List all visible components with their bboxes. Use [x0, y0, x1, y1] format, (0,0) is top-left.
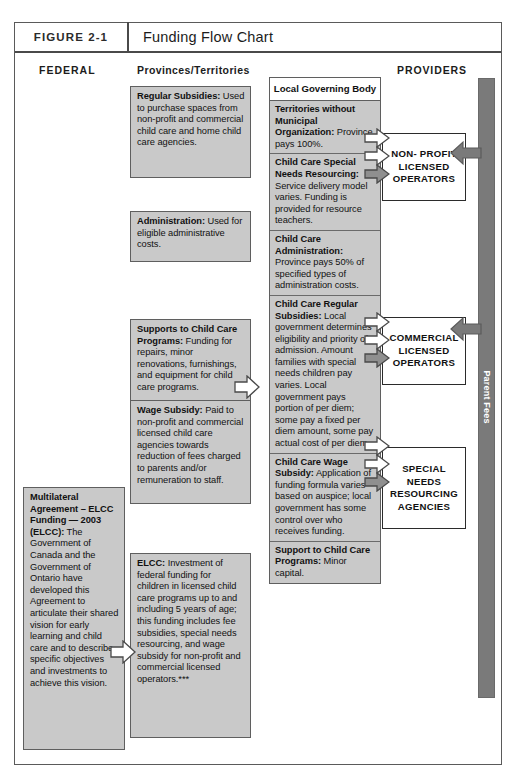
column-heading-provinces: Provinces/Territories: [137, 64, 250, 76]
lgb-cell-body: Local government determines eligibility …: [275, 311, 373, 449]
province-box-elcc: ELCC: Investment of federal funding for …: [130, 553, 251, 738]
arrow-lgb-to-non-profit-3: [364, 164, 390, 184]
arrow-lgb-to-commercial-3: [364, 348, 390, 368]
province-box-heading: Wage Subsidy:: [137, 405, 203, 415]
arrow-parent-fees-to-commercial: [450, 316, 482, 342]
provider-box-label: NON- PROFIT LICENSED OPERATORS: [391, 148, 457, 186]
arrow-provinces-to-local-governing-body: [234, 375, 260, 399]
lgb-cell-body: Province pays 50% of specified types of …: [275, 257, 364, 290]
figure-title: Funding Flow Chart: [129, 29, 273, 45]
column-heading-providers: PROVIDERS: [397, 64, 467, 76]
arrow-lgb-to-non-profit-1: [364, 128, 390, 148]
lgb-cell-body: Application of funding formula varies ba…: [275, 468, 371, 536]
arrow-lgb-to-commercial-1: [364, 312, 390, 332]
arrow-lgb-to-special-needs-3: [364, 472, 390, 492]
lgb-cell-child-care-administration: Child Care Administration: Province pays…: [270, 231, 380, 296]
province-box-wage-subsidy: Wage Subsidy: Paid to non-profit and com…: [130, 400, 251, 504]
arrow-lgb-to-special-needs-2: [364, 454, 390, 474]
parent-fees-bar: [478, 78, 495, 698]
province-box-body: Investment of federal funding for childr…: [137, 558, 241, 684]
figure-number: FIGURE 2-1: [15, 31, 127, 43]
provider-box-label: SPECIAL NEEDS RESOURCING AGENCIES: [390, 463, 458, 513]
federal-box-body: The Government of Canada and the Governm…: [30, 527, 118, 688]
arrow-lgb-to-special-needs-1: [364, 436, 390, 456]
figure-page: FIGURE 2-1 Funding Flow Chart FEDERAL Pr…: [0, 0, 516, 777]
province-box-body: Paid to non-profit and commercial licens…: [137, 405, 243, 485]
column-heading-federal: FEDERAL: [39, 64, 96, 76]
province-box-regular-subsidies: Regular Subsidies: Used to purchase spac…: [130, 86, 251, 178]
province-box-heading: Regular Subsidies:: [137, 91, 220, 101]
lgb-cell-heading: Child Care Special Needs Resourcing:: [275, 157, 359, 179]
provider-box-special-needs-resourcing-agencies: SPECIAL NEEDS RESOURCING AGENCIES: [382, 447, 466, 529]
arrow-lgb-to-non-profit-2: [364, 146, 390, 166]
lgb-cell-body: Service delivery model varies. Funding i…: [275, 181, 367, 226]
provider-box-label: COMMERCIAL LICENSED OPERATORS: [389, 332, 458, 370]
province-box-heading: ELCC:: [137, 558, 165, 568]
lgb-cell-heading: Child Care Administration:: [275, 234, 343, 256]
lgb-cell-support-to-child-care-programs: Support to Child Care Programs: Minor ca…: [270, 542, 380, 583]
federal-box-multilateral-agreement: Multilateral Agreement – ELCC Funding — …: [23, 487, 125, 750]
arrow-parent-fees-to-non-profit: [450, 140, 482, 166]
province-box-administration: Administration: Used for eligible admini…: [130, 211, 251, 262]
figure-header: FIGURE 2-1 Funding Flow Chart: [15, 23, 501, 53]
local-governing-body-title: Local Governing Body: [270, 78, 380, 101]
arrow-federal-to-elcc: [110, 640, 136, 664]
province-box-supports-to-child-care-programs: Supports to Child Care Programs: Funding…: [130, 319, 251, 400]
arrow-lgb-to-commercial-2: [364, 330, 390, 350]
province-box-heading: Administration:: [137, 216, 205, 226]
